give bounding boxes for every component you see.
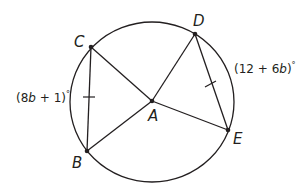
point-a <box>150 99 155 104</box>
label-c: C <box>74 33 85 51</box>
label-e: E <box>233 130 243 148</box>
tick-mark-de <box>205 81 216 87</box>
chord-cb <box>87 47 91 151</box>
circle-diagram: C D E B A (8b + 1)° (12 + 6b)° <box>0 0 303 189</box>
chord-de <box>195 34 228 130</box>
radius-ab <box>87 101 152 151</box>
arc-label-cb: (8b + 1)° <box>16 90 70 105</box>
point-d <box>193 32 198 37</box>
label-a: A <box>147 107 158 125</box>
arc-label-de: (12 + 6b)° <box>234 61 296 76</box>
point-c <box>89 45 94 50</box>
point-e <box>226 128 231 133</box>
radius-ad <box>152 34 195 101</box>
label-d: D <box>193 12 205 30</box>
radius-ae <box>152 101 228 130</box>
label-b: B <box>72 154 82 172</box>
radius-ac <box>91 47 152 101</box>
point-b <box>85 149 90 154</box>
